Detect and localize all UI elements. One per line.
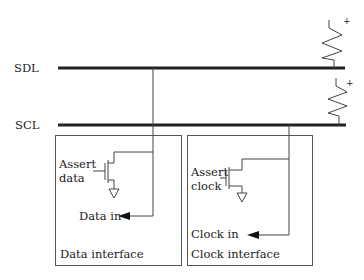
sdl-supply-plus: + [343, 16, 351, 26]
clock-transistor-icon [220, 159, 289, 202]
data-wire [128, 68, 153, 216]
scl-label: SCL [15, 118, 40, 132]
data-in-label: Data in [79, 209, 122, 223]
clock-interface-box [188, 136, 313, 266]
data-transistor-icon [93, 152, 153, 198]
sdl-pullup-resistor-icon: + [322, 16, 351, 68]
assert-data-label-line2: data [59, 171, 85, 185]
clock-in-label: Clock in [191, 227, 239, 241]
assert-data-label-line1: Assert [58, 157, 96, 171]
assert-clock-label-line1: Assert [190, 165, 228, 179]
i2c-diagram: SDL SCL + + Data interface Data in Asser… [0, 0, 364, 280]
scl-supply-plus: + [346, 78, 354, 88]
data-interface-title: Data interface [60, 247, 144, 261]
clock-in-arrow-icon [247, 231, 259, 239]
data-interface-box [56, 136, 182, 266]
scl-pullup-resistor-icon: + [328, 78, 354, 125]
clock-wire [258, 125, 289, 235]
assert-clock-label-line2: clock [191, 179, 222, 193]
sdl-label: SDL [14, 61, 39, 75]
clock-interface-title: Clock interface [191, 247, 280, 261]
